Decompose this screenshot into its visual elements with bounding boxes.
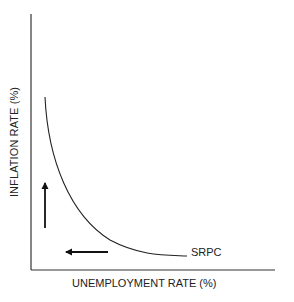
srpc-label: SRPC (191, 246, 222, 258)
phillips-curve-diagram (0, 0, 294, 302)
x-axis-label: UNEMPLOYMENT RATE (%) (72, 277, 216, 289)
srpc-curve (45, 97, 187, 256)
y-axis-label: INFLATION RATE (%) (8, 87, 20, 197)
